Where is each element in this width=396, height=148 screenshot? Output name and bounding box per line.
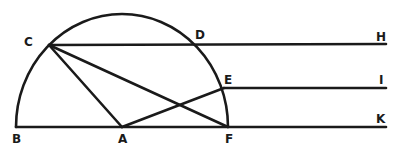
geometry-diagram: C D E B A F H I K — [0, 0, 396, 148]
line-ca — [49, 45, 122, 127]
label-e: E — [224, 73, 232, 87]
line-ch — [49, 44, 386, 45]
label-h: H — [376, 30, 386, 44]
label-c: C — [24, 35, 33, 49]
line-ae — [122, 88, 224, 127]
label-k: K — [376, 112, 386, 126]
label-f: F — [225, 132, 233, 146]
line-cf — [49, 45, 228, 127]
label-i: I — [379, 73, 383, 87]
label-d: D — [195, 28, 205, 42]
label-a: A — [118, 132, 128, 146]
label-b: B — [12, 132, 21, 146]
